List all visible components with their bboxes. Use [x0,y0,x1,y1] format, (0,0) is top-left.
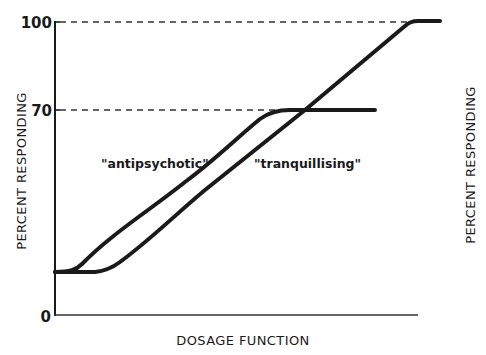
label-tranquillising: "tranquillising" [254,156,361,171]
label-antipsychotic: "antipsychotic" [101,156,209,171]
y-axis-label-left: PERCENT RESPONDING [14,92,29,250]
x-axis-label: DOSAGE FUNCTION [176,333,309,348]
series-antipsychotic-line [55,110,375,272]
y-tick-label-70: 70 [31,102,52,120]
y-tick-label-0: 0 [41,308,51,326]
dose-response-chart: 100 70 0 PERCENT RESPONDING PERCENT RESP… [0,0,486,355]
y-axis-label-right: PERCENT RESPONDING [463,86,478,244]
y-tick-label-100: 100 [21,14,52,32]
